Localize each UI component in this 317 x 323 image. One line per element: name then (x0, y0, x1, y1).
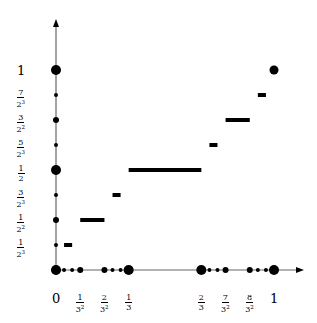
x-tick-label: 132 (76, 287, 85, 314)
x-axis-arrow-icon (296, 267, 304, 273)
x-tick-label: 23 (198, 287, 205, 312)
x-tick-label: 0 (52, 290, 60, 306)
numerator: 1 (17, 213, 24, 223)
y-axis-dot (53, 217, 59, 223)
fraction: 123 (17, 238, 26, 259)
fraction: 323 (17, 188, 26, 209)
axes (53, 19, 304, 273)
data-point (270, 66, 279, 75)
y-axis-dot (53, 117, 59, 123)
x-tick-label: 732 (221, 287, 230, 314)
fraction: 23 (198, 293, 205, 312)
y-tick-label: 723 (17, 82, 26, 109)
numerator: 2 (198, 293, 205, 303)
y-tick-label: 1 (17, 62, 25, 78)
x-axis-dot (223, 267, 229, 273)
x-axis-dot (111, 268, 115, 272)
numerator: 1 (125, 293, 132, 303)
y-tick-label: 12 (18, 158, 25, 183)
x-axis-dot (207, 268, 211, 272)
denominator: 2 (19, 174, 24, 183)
y-tick-label: 323 (17, 182, 26, 209)
x-axis-dot (264, 268, 268, 272)
x-axis-dot (77, 267, 83, 273)
plateau-segment (64, 243, 72, 247)
denominator: 32 (221, 303, 230, 314)
plateau-segment (113, 193, 121, 197)
y-axis-dot (54, 143, 58, 147)
numerator: 1 (76, 293, 83, 303)
fraction: 732 (221, 293, 230, 314)
denominator: 32 (245, 303, 254, 314)
y-axis-dot (51, 165, 61, 175)
fraction: 13 (125, 293, 132, 312)
numerator: 1 (17, 238, 24, 248)
x-tick-label: 1 (270, 290, 278, 306)
y-tick-label: 123 (17, 232, 26, 259)
denominator: 23 (17, 248, 26, 259)
x-axis-dot (70, 268, 74, 272)
x-tick-label: 232 (100, 287, 109, 314)
y-tick-label: 122 (17, 207, 26, 234)
x-axis-dot (124, 265, 134, 275)
tick-value: 1 (17, 63, 25, 78)
numerator: 7 (17, 88, 24, 98)
x-axis-dot (101, 267, 107, 273)
plateau-segments (64, 93, 266, 247)
x-axis-dot (119, 268, 123, 272)
fraction: 122 (17, 213, 26, 234)
fraction: 12 (18, 164, 25, 183)
denominator: 23 (17, 148, 26, 159)
denominator: 32 (76, 303, 85, 314)
fraction: 232 (100, 293, 109, 314)
plateau-segment (209, 143, 217, 147)
plateau-segment (129, 168, 202, 172)
denominator: 22 (17, 223, 26, 234)
denominator: 23 (17, 198, 26, 209)
plateau-segment (226, 118, 250, 122)
y-tick-label: 523 (17, 132, 26, 159)
denominator: 23 (17, 98, 26, 109)
plateau-segment (80, 218, 104, 222)
denominator: 3 (199, 303, 204, 312)
numerator: 7 (222, 293, 229, 303)
x-axis-dot (247, 267, 253, 273)
x-axis-dot (269, 265, 279, 275)
x-axis-dot (62, 268, 66, 272)
fraction: 523 (17, 138, 26, 159)
numerator: 8 (246, 293, 253, 303)
fraction: 723 (17, 88, 26, 109)
y-axis-dot (54, 243, 58, 247)
denominator: 32 (100, 303, 109, 314)
x-tick-label: 13 (125, 287, 132, 312)
x-axis-dot (215, 268, 219, 272)
cantor-function-plot (0, 0, 317, 323)
fraction: 132 (76, 293, 85, 314)
numerator: 5 (17, 138, 24, 148)
x-axis-dot (256, 268, 260, 272)
denominator: 3 (126, 303, 131, 312)
tick-value: 1 (270, 291, 278, 306)
x-tick-label: 832 (245, 287, 254, 314)
numerator: 2 (101, 293, 108, 303)
plateau-segment (258, 93, 266, 97)
fraction: 322 (17, 113, 26, 134)
y-axis-arrow-icon (53, 19, 59, 27)
y-axis-dot (51, 65, 61, 75)
y-axis-dot (54, 93, 58, 97)
tick-value: 0 (52, 291, 60, 306)
denominator: 22 (17, 123, 26, 134)
y-axis-dot (54, 193, 58, 197)
data-point (52, 266, 61, 275)
x-axis-dot (196, 265, 206, 275)
numerator: 1 (18, 164, 25, 174)
numerator: 3 (17, 113, 24, 123)
numerator: 3 (17, 188, 24, 198)
y-tick-label: 322 (17, 107, 26, 134)
fraction: 832 (245, 293, 254, 314)
